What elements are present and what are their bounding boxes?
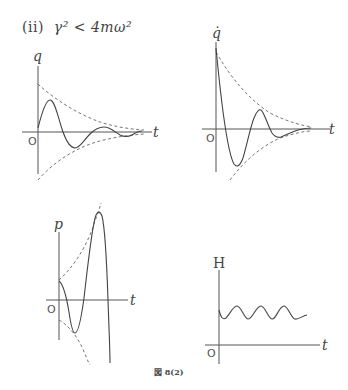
- qdot-axis-label: q̇: [212, 25, 221, 41]
- q-axis-label: q: [33, 48, 42, 64]
- qdot-origin-label: O: [206, 132, 215, 145]
- graph-q: [22, 66, 152, 180]
- qdot-t-label: t: [329, 121, 335, 137]
- p-lower-envelope: [59, 320, 90, 365]
- figure-caption: 図 8(2): [154, 366, 184, 377]
- qdot-curve: [216, 48, 311, 166]
- p-curve: [59, 212, 110, 363]
- p-upper-envelope: [59, 203, 101, 280]
- p-axis-label: p: [54, 216, 63, 232]
- q-t-label: t: [153, 124, 159, 140]
- p-t-label: t: [130, 292, 136, 308]
- diagram-canvas: [0, 0, 348, 390]
- p-origin-label: O: [47, 303, 56, 316]
- qdot-lower-envelope: [230, 131, 312, 180]
- H-t-label: t: [322, 337, 328, 353]
- H-axis-label: H: [213, 255, 225, 271]
- graph-q-dot: [202, 42, 330, 180]
- q-origin-label: O: [28, 135, 37, 148]
- q-lower-envelope: [38, 134, 144, 180]
- q-upper-envelope: [38, 84, 144, 130]
- graph-H: [205, 270, 320, 364]
- q-curve: [38, 100, 142, 148]
- H-curve: [219, 306, 307, 319]
- H-origin-label: O: [207, 347, 216, 360]
